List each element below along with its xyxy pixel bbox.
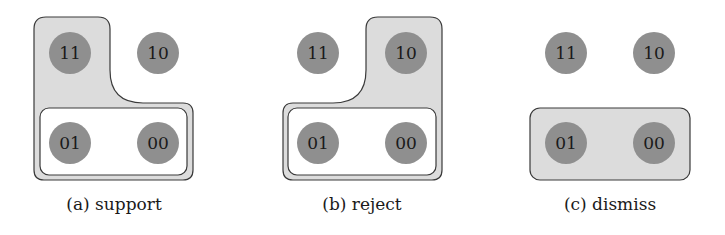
- caption-support: (a) support: [66, 194, 162, 214]
- node-10: 10: [137, 32, 179, 74]
- node-11: 11: [297, 32, 339, 74]
- panel-reject: 11 10 01 00 (b) reject: [283, 17, 442, 214]
- node-10: 10: [633, 32, 675, 74]
- node-10: 10: [385, 32, 427, 74]
- svg-text:11: 11: [555, 43, 577, 63]
- svg-text:00: 00: [395, 133, 417, 153]
- diagram-canvas: 11 10 01 00 (a) support 11 10 01: [0, 0, 725, 235]
- svg-text:01: 01: [59, 133, 81, 153]
- svg-text:11: 11: [59, 43, 81, 63]
- node-01: 01: [49, 122, 91, 164]
- node-00: 00: [633, 122, 675, 164]
- node-11: 11: [545, 32, 587, 74]
- svg-text:10: 10: [147, 43, 169, 63]
- panel-dismiss: 11 10 01 00 (c) dismiss: [530, 32, 690, 214]
- node-01: 01: [297, 122, 339, 164]
- node-01: 01: [545, 122, 587, 164]
- svg-text:00: 00: [643, 133, 665, 153]
- caption-reject: (b) reject: [322, 194, 402, 214]
- node-11: 11: [49, 32, 91, 74]
- node-00: 00: [137, 122, 179, 164]
- svg-text:01: 01: [555, 133, 577, 153]
- node-00: 00: [385, 122, 427, 164]
- svg-text:01: 01: [307, 133, 329, 153]
- panel-support: 11 10 01 00 (a) support: [34, 17, 193, 214]
- svg-text:10: 10: [395, 43, 417, 63]
- svg-text:11: 11: [307, 43, 329, 63]
- caption-dismiss: (c) dismiss: [564, 194, 656, 214]
- svg-text:10: 10: [643, 43, 665, 63]
- svg-text:00: 00: [147, 133, 169, 153]
